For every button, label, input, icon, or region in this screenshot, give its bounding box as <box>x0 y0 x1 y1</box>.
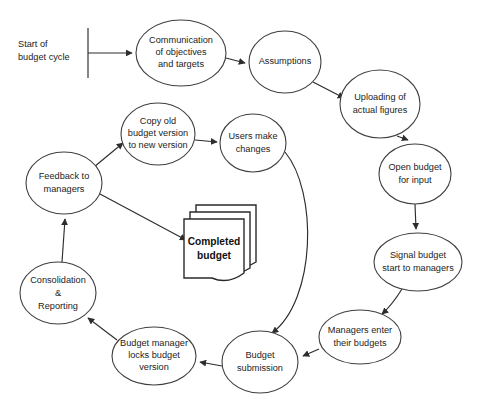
node-open-budget-for-input[interactable]: Open budget for input <box>379 144 451 204</box>
node-shape-assumptions <box>249 31 321 93</box>
node-copy-old-budget-version-to-new-version[interactable]: Copy old budget version to new version <box>121 103 195 165</box>
node-shape-budget-submission <box>222 331 298 393</box>
node-shape-open-budget <box>379 144 451 204</box>
node-shape-managers-enter <box>319 310 401 364</box>
edge-copy-old-to-users-make-changes <box>195 140 217 142</box>
node-communication-of-objectives-and-targets[interactable]: Communication of objectives and targets <box>136 20 226 86</box>
edge-feedback-to-completed-budget <box>100 194 186 240</box>
node-feedback-to-managers[interactable]: Feedback to managers <box>26 152 102 214</box>
node-users-make-changes[interactable]: Users make changes <box>220 114 286 172</box>
node-signal-budget-start-to-managers[interactable]: Signal budget start to managers <box>374 233 462 291</box>
edge-users-make-changes-to-budget-submission <box>272 152 308 333</box>
node-shape-consolidation <box>20 262 96 324</box>
node-shape-uploading <box>340 70 420 138</box>
start-of-budget-cycle-label: Start of budget cycle <box>18 39 70 62</box>
node-consolidation-and-reporting[interactable]: Consolidation & Reporting <box>20 262 96 324</box>
document-sheet-front <box>184 219 244 281</box>
edge-uploading-to-open-budget <box>397 136 408 140</box>
node-shape-budget-manager-locks <box>112 327 196 385</box>
node-shape-communication <box>136 20 226 86</box>
edge-budget-submission-to-budget-manager-locks <box>200 362 222 366</box>
budget-cycle-flowchart: Start of budget cycle Completed budget C… <box>0 0 487 410</box>
edge-budget-manager-locks-to-consolidation <box>88 318 117 340</box>
completed-budget-document[interactable]: Completed budget <box>184 205 256 281</box>
start-label-line1: Start of <box>18 39 48 49</box>
edge-feedback-to-copy-old <box>94 143 123 167</box>
node-shape-copy-old <box>121 103 195 165</box>
node-shape-users-make-changes <box>220 114 286 172</box>
node-managers-enter-their-budgets[interactable]: Managers enter their budgets <box>319 310 401 364</box>
node-budget-submission[interactable]: Budget submission <box>222 331 298 393</box>
node-uploading-of-actual-figures[interactable]: Uploading of actual figures <box>340 70 420 138</box>
edge-managers-enter-to-budget-submission <box>303 349 319 356</box>
edge-assumptions-to-uploading <box>313 82 344 98</box>
edge-signal-to-managers-enter <box>382 289 402 314</box>
node-shape-feedback <box>26 152 102 214</box>
node-shape-signal-budget <box>374 233 462 291</box>
node-assumptions[interactable]: Assumptions <box>249 31 321 93</box>
flowchart-canvas: Start of budget cycle Completed budget C… <box>0 0 487 410</box>
edge-open-budget-to-signal-budget <box>415 204 416 229</box>
start-label-line2: budget cycle <box>18 52 70 62</box>
edge-communication-to-assumptions <box>226 58 245 63</box>
node-budget-manager-locks-budget-version[interactable]: Budget manager locks budget version <box>112 327 196 385</box>
edge-consolidation-to-feedback <box>62 219 65 262</box>
